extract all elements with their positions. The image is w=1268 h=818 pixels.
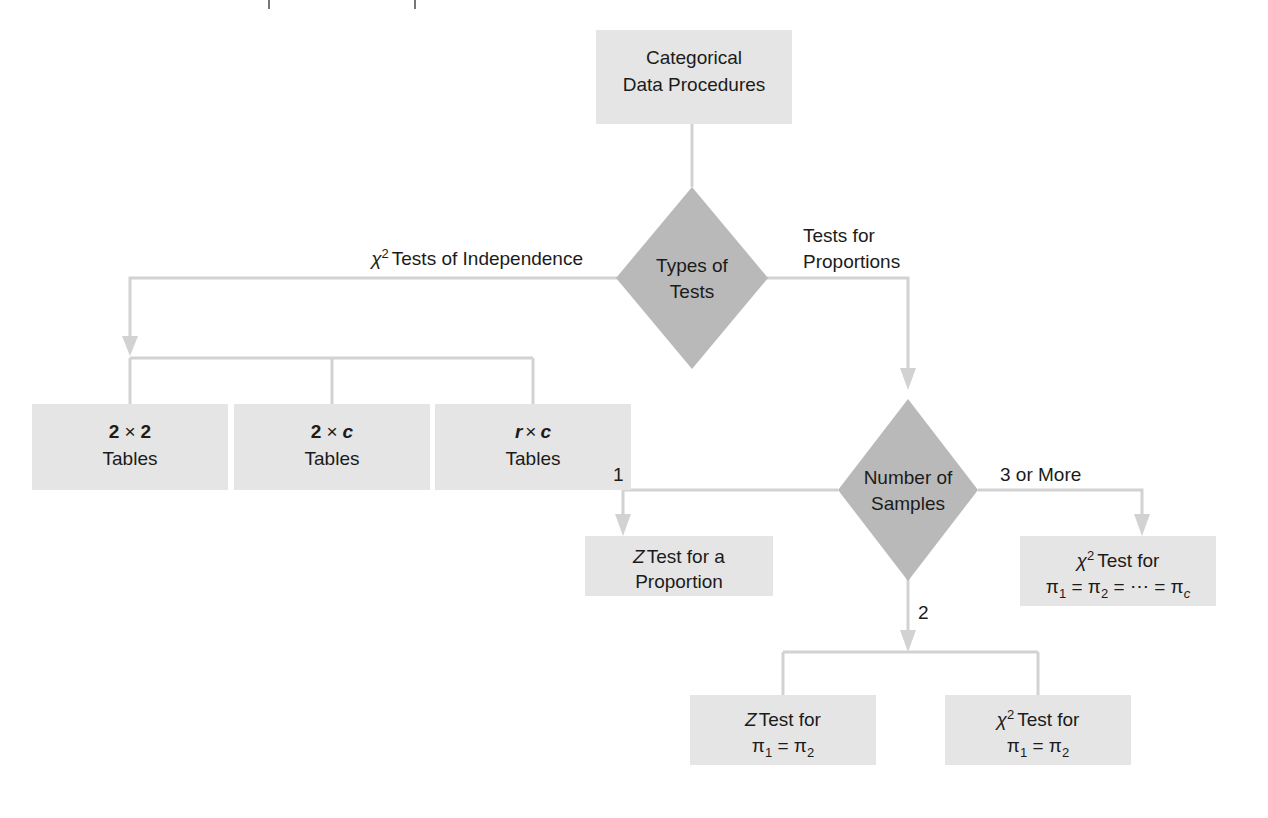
edge-types-right xyxy=(767,278,908,372)
node-z-test-two-line1: ZTest for xyxy=(744,709,822,730)
node-2x2-op: × xyxy=(124,421,135,442)
node-number-of-samples-line2: Samples xyxy=(871,493,945,514)
node-2x2-tables-line2: Tables xyxy=(103,448,158,469)
node-2xc-tables-shape xyxy=(234,404,430,490)
edge-label-chi-independence-text: χ2Tests of Independence xyxy=(369,246,583,269)
node-2x2-tables-shape xyxy=(32,404,228,490)
chi-pi-1-a: π xyxy=(1007,735,1020,756)
node-number-of-samples-shape xyxy=(838,399,978,581)
pi-1-sub: 1 xyxy=(1059,586,1066,601)
node-rxc-tables-shape xyxy=(435,404,631,490)
node-chi-test-two-proportions[interactable]: χ2Test for π1 = π2 xyxy=(945,695,1131,765)
arrowhead-samples-two xyxy=(900,630,916,652)
flowchart-canvas: Categorical Data Procedures Types of Tes… xyxy=(0,0,1268,818)
edge-types-left xyxy=(130,278,617,340)
node-root-line1: Categorical xyxy=(646,47,742,68)
edge-label-samples-two: 2 xyxy=(918,602,929,623)
node-number-of-samples[interactable]: Number of Samples xyxy=(838,399,978,581)
chi-pi-2-a: π xyxy=(1049,735,1062,756)
edge-label-chi-tests-of-independence: χ2Tests of Independence xyxy=(369,246,583,269)
node-z-test-proportion-line2: Proportion xyxy=(635,571,723,592)
z-pi-2-sub: 2 xyxy=(807,745,814,760)
flowchart-svg: Categorical Data Procedures Types of Tes… xyxy=(0,0,1268,818)
node-2xc-tables[interactable]: 2×c Tables xyxy=(234,404,430,490)
node-z-test-two-proportions[interactable]: ZTest for π1 = π2 xyxy=(690,695,876,765)
node-2x2-tables[interactable]: 2×2 Tables xyxy=(32,404,228,490)
node-2x2-b: 2 xyxy=(141,421,152,442)
node-rxc-op: × xyxy=(525,421,536,442)
chi-pi-2-sub: 2 xyxy=(1062,745,1069,760)
chi-pi-1-sub: 1 xyxy=(1020,745,1027,760)
pi-eq-1: = xyxy=(1066,576,1088,597)
node-root-line2: Data Procedures xyxy=(623,74,766,95)
z-test-proportion-rest: Test for a xyxy=(647,546,726,567)
node-types-of-tests-shape xyxy=(616,187,768,369)
edge-label-tests-for-proportions-line2: Proportions xyxy=(803,251,900,272)
edge-label-tests-for-proportions-line1: Tests for xyxy=(803,225,875,246)
pi-ellipsis: ⋯ xyxy=(1130,576,1149,597)
node-rxc-tables[interactable]: r×c Tables xyxy=(435,404,631,490)
node-chi-test-multiple-proportions[interactable]: χ2Test for π1 = π2 = ⋯ = πc xyxy=(1020,536,1216,606)
pi-c-sub: c xyxy=(1184,586,1191,601)
node-2xc-op: × xyxy=(326,421,337,442)
pi-2-a: π xyxy=(1088,576,1101,597)
node-2xc-tables-line1: 2×c xyxy=(311,421,354,442)
node-types-of-tests-line1: Types of xyxy=(656,255,729,276)
chi-glyph: χ xyxy=(369,248,382,269)
node-types-of-tests[interactable]: Types of Tests xyxy=(616,187,768,369)
edge-label-tests-for-proportions: Tests for Proportions xyxy=(803,225,900,272)
edge-label-samples-one: 1 xyxy=(613,464,624,485)
pi-2-sub: 2 xyxy=(1101,586,1108,601)
node-number-of-samples-line1: Number of xyxy=(864,467,953,488)
node-rxc-tables-line2: Tables xyxy=(506,448,561,469)
node-categorical-data-procedures[interactable]: Categorical Data Procedures xyxy=(596,30,792,124)
chi-glyph-two: χ xyxy=(995,709,1008,730)
scan-artifact-tick-2 xyxy=(414,0,416,9)
z-glyph-two: Z xyxy=(744,709,758,730)
chi-independence-rest: Tests of Independence xyxy=(392,248,583,269)
node-2xc-b: c xyxy=(343,421,354,442)
z-test-two-rest: Test for xyxy=(759,709,822,730)
pi-eq-3: = xyxy=(1149,576,1171,597)
pi-c-a: π xyxy=(1171,576,1184,597)
arrowhead-samples-one xyxy=(615,514,631,536)
chi-superscript-multi: 2 xyxy=(1087,548,1094,563)
edge-samples-one xyxy=(623,490,838,518)
node-2x2-a: 2 xyxy=(109,421,120,442)
arrowhead-types-right xyxy=(900,368,916,390)
z-pi-eq: = xyxy=(772,735,794,756)
z-pi-1-sub: 1 xyxy=(765,745,772,760)
arrowhead-types-left xyxy=(122,336,138,356)
node-2xc-a: 2 xyxy=(311,421,322,442)
chi-superscript: 2 xyxy=(382,246,389,261)
node-z-test-proportion-line1: ZTest for a xyxy=(632,546,725,567)
node-rxc-b: c xyxy=(540,421,551,442)
z-pi-1-a: π xyxy=(752,735,765,756)
edge-label-samples-three-or-more: 3 or More xyxy=(1000,464,1081,485)
scan-artifact-tick-1 xyxy=(268,0,270,9)
chi-pi-eq: = xyxy=(1027,735,1049,756)
chi-glyph-multi: χ xyxy=(1075,550,1088,571)
node-rxc-tables-line1: r×c xyxy=(515,421,552,442)
chi-test-two-rest: Test for xyxy=(1017,709,1080,730)
node-types-of-tests-line2: Tests xyxy=(670,281,714,302)
z-glyph: Z xyxy=(632,546,646,567)
node-2x2-tables-line1: 2×2 xyxy=(109,421,151,442)
chi-test-multi-rest: Test for xyxy=(1097,550,1160,571)
node-z-test-for-a-proportion[interactable]: ZTest for a Proportion xyxy=(585,536,773,596)
z-pi-2-a: π xyxy=(794,735,807,756)
pi-eq-2: = xyxy=(1108,576,1130,597)
node-2xc-tables-line2: Tables xyxy=(305,448,360,469)
arrowhead-samples-three xyxy=(1134,514,1150,536)
pi-1-a: π xyxy=(1046,576,1059,597)
chi-superscript-two: 2 xyxy=(1007,707,1014,722)
edge-samples-three xyxy=(978,490,1142,518)
